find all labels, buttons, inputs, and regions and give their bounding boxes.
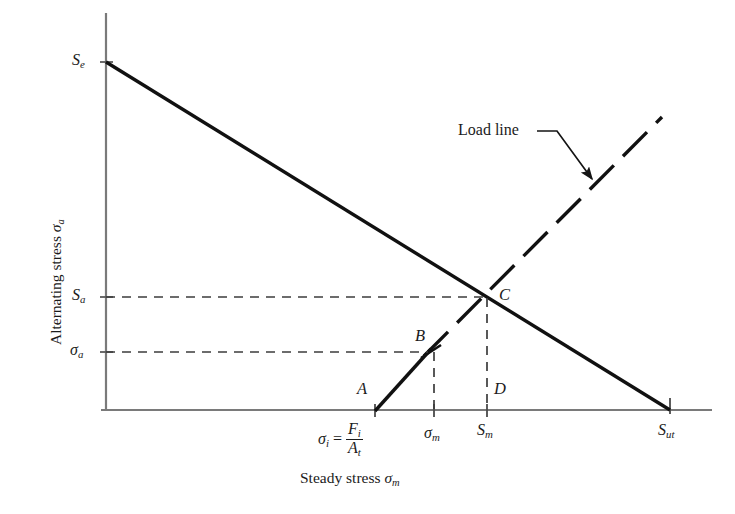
- y-tick-label-se-symbol: S: [72, 51, 80, 68]
- x-axis-title: Steady stress σm: [300, 470, 400, 488]
- equation-numerator-sub: i: [358, 427, 361, 439]
- equation-numerator: Fi: [346, 421, 363, 440]
- point-label-d: D: [494, 381, 506, 398]
- axis-lines: [101, 13, 712, 410]
- point-label-c: C: [499, 287, 510, 304]
- x-tick-label-sm: Sm: [477, 422, 493, 440]
- y-tick-label-sigma-a-symbol: σ: [70, 341, 78, 358]
- equation-numerator-symbol: F: [348, 420, 358, 437]
- equation-equals: =: [333, 430, 342, 447]
- y-tick-label-sa-symbol: S: [72, 286, 80, 303]
- x-tick-label-sut: Sut: [658, 422, 674, 440]
- load-line-dashed-segment: [424, 117, 662, 356]
- y-axis-title-symbol: σ: [47, 225, 64, 233]
- load-line-leader: [537, 131, 592, 179]
- point-label-b: B: [415, 328, 425, 345]
- x-tick-label-sut-symbol: S: [658, 421, 666, 438]
- x-tick-label-sm-symbol: S: [477, 421, 485, 438]
- point-label-a: A: [357, 381, 367, 398]
- equation-fraction: Fi At: [346, 421, 363, 458]
- y-tick-label-se: Se: [72, 52, 85, 70]
- equation-denominator-sub: t: [358, 446, 361, 458]
- goodman-line: [106, 62, 670, 410]
- y-tick-label-sa-sub: a: [80, 293, 85, 305]
- x-tick-label-sm-sub: m: [485, 428, 493, 440]
- equation-denominator-symbol: A: [348, 439, 358, 456]
- y-axis-title-text: Alternating stress: [47, 232, 64, 345]
- equation-lhs-sub: i: [326, 437, 329, 449]
- x-tick-label-sigma-m-sub: m: [432, 431, 440, 443]
- equation-lhs-symbol: σ: [318, 430, 326, 447]
- y-tick-label-sa: Sa: [72, 287, 85, 305]
- equation-denominator: At: [346, 440, 363, 458]
- x-tick-label-sut-sub: ut: [666, 428, 674, 440]
- load-line-annotation: Load line: [458, 122, 519, 138]
- y-axis-title: Alternating stress σa: [48, 219, 66, 345]
- x-axis-title-text: Steady stress: [300, 469, 384, 486]
- x-axis-ticks: [375, 398, 670, 417]
- x-tick-label-sigma-m-symbol: σ: [424, 424, 432, 441]
- y-tick-label-se-sub: e: [80, 58, 85, 70]
- x-tick-label-sigma-m: σm: [424, 425, 440, 443]
- y-tick-label-sigma-a-sub: a: [78, 348, 83, 360]
- x-axis-title-symbol: σ: [384, 469, 392, 486]
- x-tick-label-sigma-i-equation: σi = Fi At: [318, 422, 363, 459]
- y-axis-title-sub: a: [55, 219, 66, 224]
- y-tick-label-sigma-a: σa: [70, 342, 83, 360]
- x-axis-title-sub: m: [392, 477, 400, 488]
- goodman-diagram-figure: Alternating stress σa Steady stress σm S…: [0, 0, 735, 514]
- plot-canvas: [0, 0, 735, 514]
